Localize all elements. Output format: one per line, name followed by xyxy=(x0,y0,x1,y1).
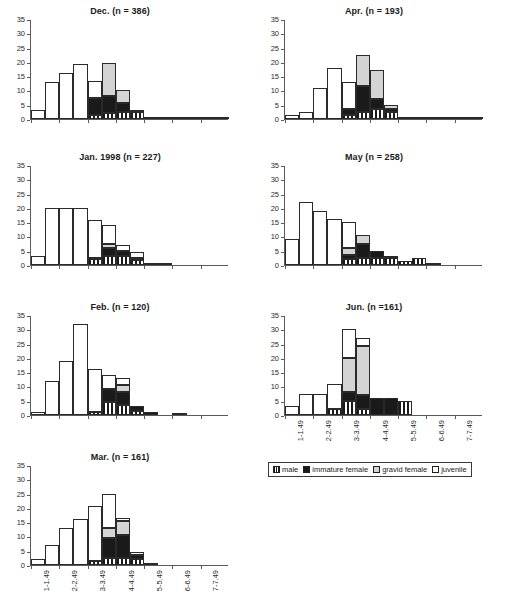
bar-mar-3.5-3.99 xyxy=(102,494,116,565)
bar-segment-immature-female-jan-5-5.49 xyxy=(144,263,158,265)
bar-feb-4-4.49 xyxy=(116,378,130,415)
bars-feb xyxy=(31,316,228,415)
y-tick-label-apr-20: 20 xyxy=(271,59,279,67)
bar-segment-immature-female-apr-4.5-4.99 xyxy=(384,109,398,112)
bar-apr-2.5-2.99 xyxy=(327,68,341,119)
y-tick-mar-5 xyxy=(27,552,30,553)
bar-segment-juvenile-dec-1-1.49 xyxy=(31,110,45,119)
legend-swatch-immature xyxy=(303,466,310,473)
bar-segment-juvenile-jan-3-3.49 xyxy=(88,220,102,257)
bar-dec-5-5.49 xyxy=(144,118,158,119)
bar-may-6-6.49 xyxy=(426,264,440,265)
y-tick-jun-25 xyxy=(281,345,284,346)
x-tick-dec-1 xyxy=(59,120,60,123)
bar-segment-immature-female-dec-6-6.49 xyxy=(172,117,186,119)
y-tick-label-feb-10: 10 xyxy=(17,384,25,392)
bar-jan-2-2.49 xyxy=(59,208,73,265)
y-tick-label-feb-0: 0 xyxy=(21,412,25,420)
bar-jan-1.5-1.99 xyxy=(45,208,59,265)
bar-segment-juvenile-mar-1.5-1.99 xyxy=(45,545,59,565)
y-tick-feb-25 xyxy=(27,345,30,346)
bar-dec-3.5-3.99 xyxy=(102,63,116,119)
bar-apr-5.5-5.99 xyxy=(412,117,426,119)
y-tick-label-dec-5: 5 xyxy=(21,102,25,110)
panel-title-may: May (n = 258) xyxy=(258,152,490,162)
y-tick-label-apr-35: 35 xyxy=(271,16,279,24)
bar-segment-juvenile-may-1.5-1.99 xyxy=(299,202,313,265)
x-tick-may-6 xyxy=(455,266,456,269)
panel-apr: Apr. (n = 193)05101520253035 xyxy=(258,6,490,126)
bar-segment-immature-female-jan-3.5-3.99 xyxy=(102,248,116,257)
bar-segment-juvenile-jan-4.5-4.99 xyxy=(130,252,144,258)
bar-segment-immature-female-jan-4-4.49 xyxy=(116,251,130,257)
y-tick-apr-15 xyxy=(281,77,284,78)
bar-segment-immature-female-may-4.5-4.99 xyxy=(384,256,398,258)
x-tick-dec-4 xyxy=(144,120,145,123)
bar-segment-male-may-3.5-3.99 xyxy=(356,258,370,265)
bar-segment-immature-female-jun-4.5-4.99 xyxy=(384,398,398,415)
y-tick-jun-35 xyxy=(281,316,284,317)
y-tick-label-jan-35: 35 xyxy=(17,162,25,170)
legend-swatch-gravid xyxy=(373,466,380,473)
bar-apr-7.5-7.99 xyxy=(469,118,483,119)
bar-may-3.5-3.99 xyxy=(356,235,370,265)
bar-segment-juvenile-feb-4-4.49 xyxy=(116,378,130,385)
bar-jun-4-4.49 xyxy=(370,398,384,415)
bar-dec-6-6.49 xyxy=(172,118,186,119)
y-tick-label-may-20: 20 xyxy=(271,205,279,213)
plot-area-apr: 05101520253035 xyxy=(284,20,482,120)
y-tick-jan-10 xyxy=(27,237,30,238)
bar-segment-male-feb-3.5-3.99 xyxy=(102,402,116,415)
bar-segment-immature-female-jan-5.5-5.99 xyxy=(158,263,172,265)
bar-dec-1.5-1.99 xyxy=(45,82,59,119)
bar-feb-2.5-2.99 xyxy=(73,324,87,415)
bar-segment-male-jan-3-3.49 xyxy=(88,259,102,265)
bar-segment-immature-female-jun-3-3.49 xyxy=(342,392,356,401)
panel-title-apr: Apr. (n = 193) xyxy=(258,6,490,16)
bar-segment-juvenile-feb-3-3.49 xyxy=(88,369,102,412)
bar-dec-4-4.49 xyxy=(116,90,130,119)
bar-segment-gravid-female-dec-4-4.49 xyxy=(116,90,130,103)
bar-segment-immature-female-apr-4-4.49 xyxy=(370,99,384,109)
bar-segment-juvenile-apr-1.5-1.99 xyxy=(299,112,313,119)
bar-jan-1-1.49 xyxy=(31,256,45,265)
x-tick-label-jun-1: 2-2.49 xyxy=(325,420,333,441)
y-tick-may-0 xyxy=(281,266,284,267)
bar-apr-4.5-4.99 xyxy=(384,105,398,119)
panel-mar: Mar. (n = 161)051015202530351-1.492-2.49… xyxy=(4,452,236,610)
x-tick-label-jun-0: 1-1.49 xyxy=(297,420,305,441)
x-tick-jan-3 xyxy=(116,266,117,269)
figure-size-frequency-histograms: Dec. (n = 386)05101520253035Jan. 1998 (n… xyxy=(0,0,508,615)
y-tick-label-jan-15: 15 xyxy=(17,219,25,227)
bar-segment-immature-female-feb-5-5.49 xyxy=(144,412,158,415)
y-tick-label-may-10: 10 xyxy=(271,234,279,242)
panel-dec: Dec. (n = 386)05101520253035 xyxy=(4,6,236,126)
x-tick-jan-6 xyxy=(201,266,202,269)
bar-segment-immature-female-jun-3.5-3.99 xyxy=(356,395,370,409)
y-tick-label-mar-35: 35 xyxy=(17,462,25,470)
bar-segment-male-dec-3.5-3.99 xyxy=(102,113,116,119)
bar-segment-gravid-female-apr-4-4.49 xyxy=(370,70,384,99)
bar-segment-male-may-4.5-4.99 xyxy=(384,258,398,265)
x-tick-apr-0 xyxy=(285,120,286,123)
x-tick-label-mar-5: 6-6.49 xyxy=(184,570,192,591)
y-tick-label-mar-0: 0 xyxy=(21,562,25,570)
bar-segment-immature-female-apr-6.5-6.99 xyxy=(441,117,455,119)
bar-dec-7.5-7.99 xyxy=(215,118,229,119)
plot-area-may: 05101520253035 xyxy=(284,166,482,266)
panel-jan: Jan. 1998 (n = 227)05101520253035 xyxy=(4,152,236,272)
bar-segment-gravid-female-may-3.5-3.99 xyxy=(356,235,370,244)
bar-segment-immature-female-mar-4.5-4.99 xyxy=(130,555,144,559)
y-tick-label-apr-30: 30 xyxy=(271,31,279,39)
bar-segment-male-may-5.5-5.99 xyxy=(412,258,426,265)
bar-segment-juvenile-may-2-2.49 xyxy=(313,211,327,265)
bar-segment-juvenile-dec-3-3.49 xyxy=(88,81,102,98)
bar-segment-juvenile-feb-2-2.49 xyxy=(59,361,73,415)
bar-segment-immature-female-dec-3-3.49 xyxy=(88,98,102,115)
y-tick-label-jun-20: 20 xyxy=(271,355,279,363)
y-tick-apr-5 xyxy=(281,106,284,107)
bar-segment-immature-female-apr-3.5-3.99 xyxy=(356,86,370,112)
y-tick-may-30 xyxy=(281,180,284,181)
bar-segment-juvenile-dec-1.5-1.99 xyxy=(45,82,59,119)
bar-may-5.5-5.99 xyxy=(412,258,426,265)
